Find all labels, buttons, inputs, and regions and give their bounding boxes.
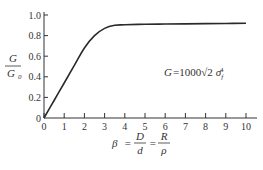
y-tick-label: 0 xyxy=(36,113,41,124)
x-tick-label: 1 xyxy=(62,121,67,132)
y-tick-label: 0.8 xyxy=(29,30,42,41)
x-label-frac2-num: R xyxy=(160,130,168,142)
x-tick-label: 3 xyxy=(102,121,107,132)
y-tick-label: 1.0 xyxy=(29,10,42,21)
y-ticks: 00.20.40.60.81.0 xyxy=(29,10,49,124)
x-label-eq2: = xyxy=(149,137,156,149)
x-tick-label: 10 xyxy=(241,121,251,132)
chart: 00.20.40.60.81.0 012345678910 G G 0 G=10… xyxy=(0,0,263,170)
x-axis-label: β = D d = R ρ xyxy=(111,130,170,156)
y-label-denominator: G xyxy=(7,67,15,79)
x-tick-label: 7 xyxy=(183,121,188,132)
x-label-frac2-den: ρ xyxy=(160,144,166,156)
x-label-frac1-den: d xyxy=(137,144,143,156)
x-tick-label: 0 xyxy=(42,121,47,132)
y-label-denominator-sub: 0 xyxy=(18,73,22,81)
x-label-beta: β xyxy=(111,137,118,149)
formula-annotation: G=1000√2σf4 xyxy=(164,66,224,81)
x-label-frac1-num: D xyxy=(135,130,144,142)
x-ticks: 012345678910 xyxy=(42,113,252,132)
x-tick-label: 9 xyxy=(223,121,228,132)
x-tick-label: 2 xyxy=(82,121,87,132)
svg-text:G=1000√2σf4: G=1000√2σf4 xyxy=(164,66,224,81)
y-axis-label: G G 0 xyxy=(5,52,22,81)
y-tick-label: 0.4 xyxy=(29,71,42,82)
x-tick-label: 8 xyxy=(203,121,208,132)
y-label-numerator: G xyxy=(9,52,17,64)
x-tick-label: 4 xyxy=(122,121,127,132)
y-tick-label: 0.2 xyxy=(29,92,42,103)
y-tick-label: 0.6 xyxy=(29,51,42,62)
x-label-eq1: = xyxy=(124,137,131,149)
